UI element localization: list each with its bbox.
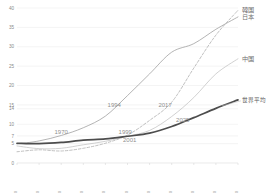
year-annotation: 1970	[55, 129, 69, 135]
y-axis-tick-label: 10	[9, 122, 15, 127]
year-annotation: 1999	[119, 129, 133, 135]
y-axis-tick-labels: 0571014152025303540	[9, 6, 15, 166]
y-axis-tick-label: 25	[9, 64, 15, 69]
x-axis-tick-labels: 1950196019701980199020002010202020302040…	[13, 163, 239, 193]
year-annotation: 1994	[108, 102, 122, 108]
chart-canvas: 0571014152025303540 19501960197019801990…	[0, 0, 272, 193]
x-axis-tick-label: 1950	[13, 190, 18, 193]
series-line	[17, 17, 238, 144]
y-axis-tick-label: 0	[11, 161, 14, 166]
x-axis-tick-label: 2000	[124, 190, 129, 193]
series-label: 世界平均	[242, 96, 266, 104]
x-axis-tick-label: 2050	[234, 190, 239, 193]
aging-population-line-chart: 0571014152025303540 19501960197019801990…	[0, 0, 272, 193]
x-axis-tick-label: 2020	[168, 190, 173, 193]
x-axis-tick-label: 1980	[79, 190, 84, 193]
y-axis-tick-label: 20	[9, 83, 15, 88]
x-axis-tick-label: 2040	[212, 190, 217, 193]
y-axis-tick-label: 15	[9, 103, 15, 108]
series-label: 韓国	[242, 6, 254, 14]
year-annotation: 2001	[123, 137, 137, 143]
x-axis-tick-label: 2010	[146, 190, 151, 193]
y-axis-tick-label: 5	[11, 141, 14, 146]
year-annotations: 197019941999200120172025	[55, 102, 191, 143]
x-axis-tick-label: 1970	[57, 190, 62, 193]
y-axis-tick-label: 30	[9, 44, 15, 49]
year-annotation: 2017	[158, 102, 172, 108]
y-axis-tick-label: 35	[9, 25, 15, 30]
x-axis-tick-label: 1990	[101, 190, 106, 193]
x-axis-tick-label: 1960	[35, 190, 40, 193]
series-labels: 日本韓国中国世界平均	[222, 6, 266, 106]
series-label: 日本	[242, 13, 254, 21]
y-axis-tick-label: 40	[9, 6, 15, 11]
y-axis-tick-label: 7	[11, 134, 14, 139]
series-label: 中国	[242, 55, 254, 63]
x-axis-tick-label: 2030	[190, 190, 195, 193]
year-annotation: 2025	[176, 117, 190, 123]
